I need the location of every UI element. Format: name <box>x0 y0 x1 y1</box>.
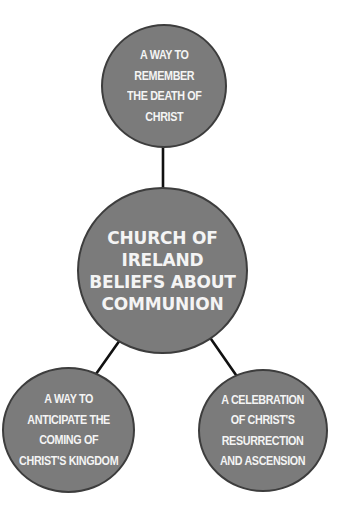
central-node: CHURCH OF IRELAND BELIEFS ABOUT COMMUNIO… <box>77 187 248 354</box>
node-label: A CELEBRATION OF CHRIST'S RESURRECTION A… <box>220 390 305 472</box>
connector-bottom-right <box>211 339 236 375</box>
node-remember-death: A WAY TO REMEMBER THE DEATH OF CHRIST <box>101 24 227 148</box>
connector-bottom-left <box>96 340 120 374</box>
central-node-label: CHURCH OF IRELAND BELIEFS ABOUT COMMUNIO… <box>89 227 235 315</box>
node-anticipate-kingdom: A WAY TO ANTICIPATE THE COMING OF CHRIST… <box>2 367 135 493</box>
communion-beliefs-diagram: A WAY TO REMEMBER THE DEATH OF CHRIST CH… <box>0 0 338 505</box>
node-celebration-resurrection: A CELEBRATION OF CHRIST'S RESURRECTION A… <box>198 369 328 492</box>
node-label: A WAY TO REMEMBER THE DEATH OF CHRIST <box>127 45 202 127</box>
node-label: A WAY TO ANTICIPATE THE COMING OF CHRIST… <box>19 389 118 471</box>
